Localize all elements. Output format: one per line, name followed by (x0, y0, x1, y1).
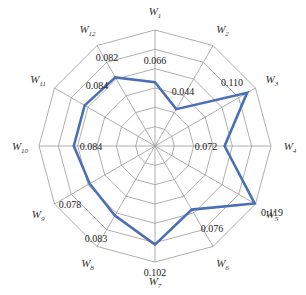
value-label-w3: 0.110 (221, 77, 243, 88)
value-label-w4: 0.072 (195, 141, 218, 152)
value-label-w11: 0.084 (86, 80, 109, 91)
value-label-w6: 0.076 (201, 223, 224, 234)
axis-label-w10: W10 (12, 140, 29, 155)
radar-chart: W1W2W3W4W5W6W7W8W9W10W11W12 0.0660.0440.… (0, 0, 306, 295)
value-label-w9: 0.078 (59, 199, 82, 210)
value-label-w8: 0.083 (85, 233, 108, 244)
value-label-w2: 0.044 (172, 86, 195, 97)
axis-label-w12: W12 (79, 23, 96, 38)
value-label-w10: 0.084 (80, 141, 103, 152)
grid-spoke (55, 88, 155, 146)
axis-label-w2: W2 (216, 23, 229, 38)
axis-label-w11: W11 (30, 73, 46, 88)
grid-spoke (55, 146, 155, 204)
axis-label-w9: W9 (32, 208, 45, 223)
value-label-w12: 0.082 (96, 52, 119, 63)
value-label-w1: 0.066 (144, 55, 167, 66)
value-label-w5: 0.119 (261, 207, 283, 218)
grid-spoke (97, 146, 155, 246)
axis-label-w3: W3 (266, 73, 279, 88)
axis-label-w6: W6 (216, 257, 229, 272)
axis-label-w4: W4 (284, 140, 297, 155)
axis-label-w8: W8 (81, 257, 94, 272)
axis-label-w1: W1 (149, 5, 162, 20)
value-label-w7: 0.102 (144, 267, 167, 278)
grid-spoke (155, 88, 255, 146)
value-labels: 0.0660.0440.1100.0720.1190.0760.1020.083… (59, 52, 283, 278)
